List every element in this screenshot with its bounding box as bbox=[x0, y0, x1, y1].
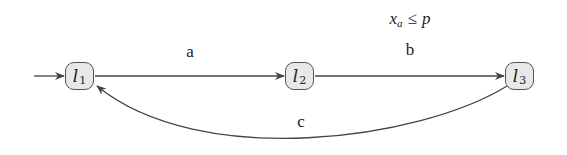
edge-label-c: c bbox=[297, 112, 305, 132]
location-l2-sub: 2 bbox=[299, 74, 306, 87]
guard-var-sub: a bbox=[397, 17, 403, 29]
location-l2-base: l bbox=[293, 66, 298, 86]
location-l1[interactable]: l1 bbox=[65, 62, 94, 90]
location-l2[interactable]: l2 bbox=[285, 62, 314, 90]
guard-var: x bbox=[390, 9, 398, 28]
edge-label-b: b bbox=[406, 40, 415, 60]
location-l3-base: l bbox=[513, 66, 518, 86]
guard-label-b: xa≤p bbox=[390, 9, 431, 29]
edge-label-a: a bbox=[186, 42, 194, 62]
location-l3-sub: 3 bbox=[519, 74, 526, 87]
location-l1-sub: 1 bbox=[79, 74, 86, 87]
guard-rhs: p bbox=[422, 9, 431, 28]
location-l3[interactable]: l3 bbox=[505, 62, 534, 90]
location-l1-base: l bbox=[73, 66, 78, 86]
guard-operator: ≤ bbox=[408, 9, 417, 28]
